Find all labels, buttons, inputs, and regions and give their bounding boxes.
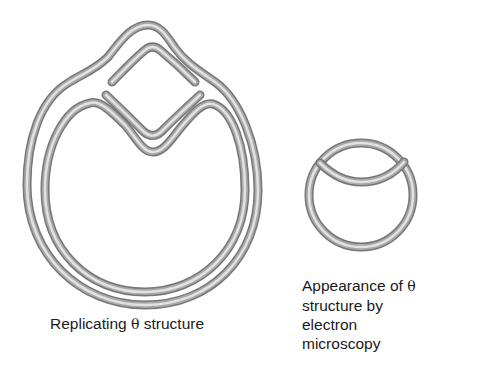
em-circle-strand bbox=[309, 143, 413, 247]
right-caption-line1-text: Appearance of bbox=[302, 277, 407, 294]
outer-parental-strand bbox=[27, 25, 258, 305]
left-caption-suffix: structure bbox=[139, 315, 204, 332]
right-caption-line1: Appearance of θ bbox=[302, 276, 477, 296]
left-caption-prefix: Replicating bbox=[50, 315, 131, 332]
right-caption-line4: microscopy bbox=[302, 334, 477, 353]
replicating-theta-drawing bbox=[27, 25, 258, 305]
em-theta-drawing bbox=[309, 143, 413, 247]
right-caption: Appearance of θ structure by electron mi… bbox=[302, 276, 477, 353]
right-caption-line3: electron bbox=[302, 315, 477, 334]
right-caption-line2: structure by bbox=[302, 296, 477, 315]
theta-symbol: θ bbox=[407, 278, 415, 294]
em-chord-strand bbox=[320, 162, 404, 182]
left-caption: Replicating θ structure bbox=[50, 314, 204, 334]
